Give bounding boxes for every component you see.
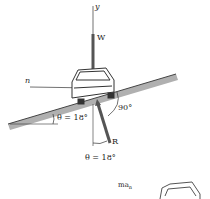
slope-angle-label: θ = 18° <box>57 113 88 122</box>
slope-angle-arc <box>53 114 54 124</box>
inertial-force-label: man <box>118 181 132 190</box>
car-partial-icon <box>160 182 200 199</box>
reaction-angle-arc <box>93 141 107 144</box>
reaction-label: R <box>112 137 118 146</box>
right-angle-label: 90° <box>118 103 132 112</box>
free-body-diagram <box>0 0 210 199</box>
inertial-force-subscript: n <box>129 184 132 190</box>
n-axis-label: n <box>25 76 30 85</box>
reaction-vector <box>98 104 110 143</box>
reaction-angle-label: θ = 18° <box>85 153 116 162</box>
y-axis-label: y <box>95 2 100 11</box>
weight-label: W <box>97 33 105 42</box>
inertial-force-text: ma <box>118 181 129 189</box>
